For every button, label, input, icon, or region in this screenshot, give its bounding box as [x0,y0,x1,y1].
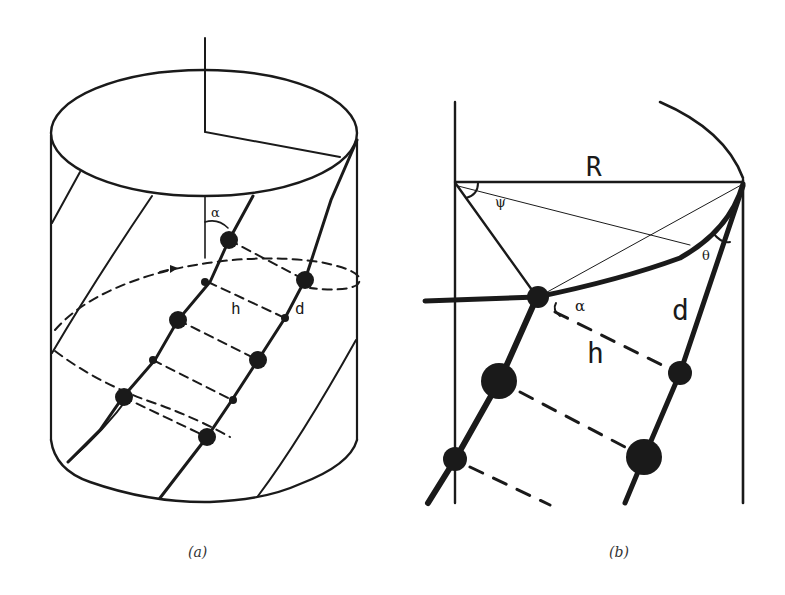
dashed-orbit-front [55,351,230,437]
helix-line-2 [52,196,152,353]
rung-b-1 [555,312,672,370]
label-R: R [586,152,602,182]
helix-line-4 [258,340,356,496]
bead [198,428,216,446]
label-h-b: h [587,337,604,370]
rung-4 [153,360,232,400]
rung-5 [123,397,207,437]
bead-top [527,286,549,308]
beads-panel-b [443,286,692,475]
bead [668,361,692,385]
rung-3 [178,320,258,360]
psi-arc [466,183,478,198]
bead [296,271,314,289]
bead-small [281,314,289,322]
helix-cylinder-figure: α h d [0,0,785,595]
rung-b-2 [520,392,625,447]
bead [169,311,187,329]
label-alpha-b: α [575,297,585,315]
helix-line-1 [52,172,80,223]
bead [220,231,238,249]
dashed-orbit-back [55,258,360,330]
bead-small [149,356,157,364]
label-h-a: h [231,299,241,318]
cylinder-arc [660,102,743,178]
bead [443,447,467,471]
alpha-arc [205,221,228,228]
beads-strand-1 [115,231,238,406]
caption-b: (b) [609,544,629,560]
helix-curve-thick [425,184,743,301]
label-d-b: d [672,294,689,327]
label-psi: ψ [495,194,506,210]
panel-a [51,38,360,502]
cylinder-bottom-arc [51,440,357,502]
caption-a: (a) [188,544,207,560]
bead-strand-2 [160,140,357,498]
rung-2 [208,282,285,318]
bead [249,351,267,369]
rung-b-3 [470,467,550,505]
bead [115,388,133,406]
bead-small [229,396,237,404]
bead-small [201,278,209,286]
label-alpha-a: α [211,205,220,220]
bead-large [626,439,662,475]
bead-large [481,363,517,399]
label-theta: θ [702,248,710,263]
label-d-a: d [295,299,305,318]
cylinder-axis [205,38,340,157]
